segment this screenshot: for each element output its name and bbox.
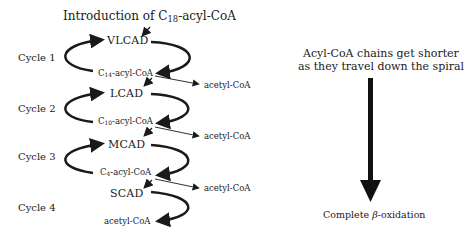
cycle-1-left-arrow-icon — [65, 40, 100, 71]
cycle-2-left-arrow-icon — [65, 93, 100, 122]
spiral-direction-arrow-icon — [360, 78, 381, 202]
entry-arrow-icon — [143, 27, 150, 35]
cycle-2-right-arrow-icon — [151, 94, 188, 123]
cycle-2-acetyl-arrow-icon — [155, 127, 198, 136]
cycle-3-right-arrow-icon — [151, 145, 188, 175]
cycle-3-acetyl-arrow-icon — [155, 179, 198, 188]
cycle-1-acetyl-arrow-icon — [155, 76, 198, 84]
cycle-2-down-arrow-icon — [145, 128, 152, 135]
cycle-3-left-arrow-icon — [65, 144, 100, 173]
cycle-1-right-arrow-icon — [151, 42, 190, 73]
cycle-1-down-arrow-icon — [145, 78, 152, 85]
cycle-3-down-arrow-icon — [145, 180, 152, 187]
cycle-4-arrow-icon — [151, 192, 188, 221]
